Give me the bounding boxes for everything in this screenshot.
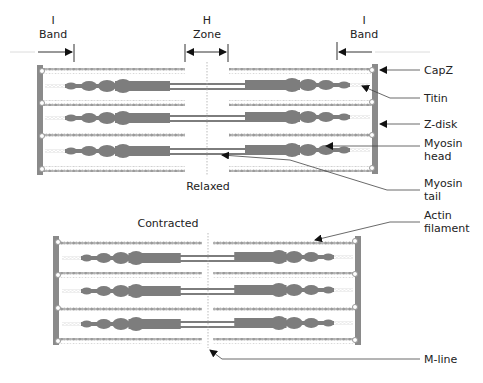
h-zone-arrow — [185, 44, 228, 62]
svg-text:head: head — [424, 150, 451, 163]
myosin-filaments-contracted — [62, 250, 353, 331]
svg-text:filament: filament — [424, 222, 470, 235]
relaxed-label: Relaxed — [186, 180, 230, 193]
h-zone-label: H Zone — [193, 14, 221, 41]
i-band-left-arrow — [10, 44, 74, 62]
svg-text:Actin: Actin — [424, 209, 452, 222]
svg-text:H: H — [203, 14, 211, 27]
callout-titin: Titin — [423, 92, 448, 105]
svg-text:I: I — [51, 14, 54, 27]
i-band-right-arrow — [337, 42, 430, 60]
callout-m-line: M-line — [424, 353, 458, 366]
svg-text:Myosin: Myosin — [424, 177, 463, 190]
z-disk-right-contracted — [355, 236, 361, 345]
contracted-label: Contracted — [137, 217, 198, 230]
z-disk-right — [372, 64, 378, 174]
callout-z-disk: Z-disk — [424, 118, 458, 131]
callout-myosin-head: Myosin head — [424, 137, 463, 163]
callout-actin-filament: Actin filament — [424, 209, 470, 235]
contracted-sarcomere — [53, 233, 361, 348]
svg-text:Band: Band — [39, 28, 67, 41]
callout-myosin-tail: Myosin tail — [424, 177, 463, 203]
z-disk-left — [37, 65, 43, 175]
svg-text:Band: Band — [350, 28, 378, 41]
svg-text:Myosin: Myosin — [424, 137, 463, 150]
callout-capz: CapZ — [424, 64, 453, 77]
sarcomere-diagram: I Band H Zone I Band — [0, 0, 483, 383]
i-band-left-label: I Band — [39, 14, 67, 41]
relaxed-sarcomere — [37, 62, 378, 176]
svg-text:I: I — [362, 14, 365, 27]
myosin-filaments — [45, 78, 370, 158]
svg-text:Zone: Zone — [193, 28, 221, 41]
i-band-right-label: I Band — [350, 14, 378, 41]
z-disk-left-contracted — [53, 236, 59, 345]
svg-text:tail: tail — [424, 190, 441, 203]
